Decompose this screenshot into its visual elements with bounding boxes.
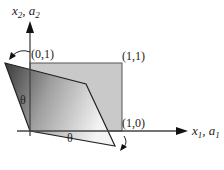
point-label-1-0: (1,0) <box>122 116 145 130</box>
y-axis-label: x2, a2 <box>11 3 40 20</box>
angle-label-bottom: θ <box>67 131 73 145</box>
angle-label-left: θ <box>20 93 26 107</box>
x-axis-arrow-icon <box>176 127 188 135</box>
point-label-1-1: (1,1) <box>122 49 145 63</box>
point-label-0-1: (0,1) <box>31 47 54 61</box>
rotation-diagram: x2, a2 x1, a1 (0,1) (1,1) (1,0) θ θ <box>0 0 224 170</box>
rotation-arrowhead-bottom-icon <box>120 144 127 151</box>
y-axis-arrow-icon <box>26 21 34 33</box>
x-axis-label: x1, a1 <box>191 123 220 140</box>
rotation-arrow-bottom-icon <box>124 136 126 147</box>
